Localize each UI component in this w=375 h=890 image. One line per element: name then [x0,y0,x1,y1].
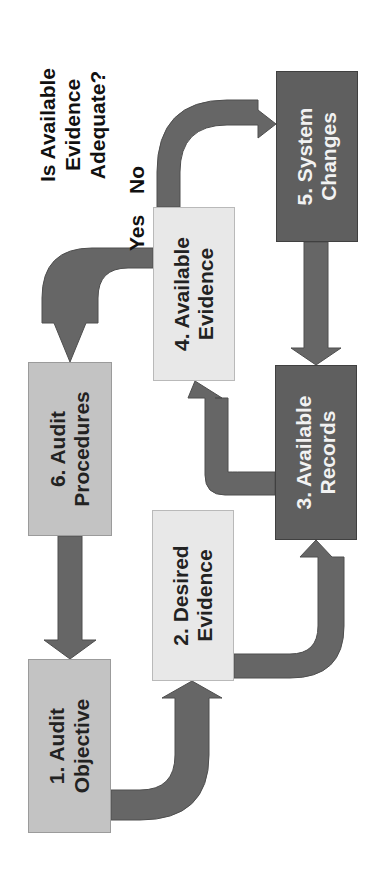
flowchart-canvas: 1. Audit Objective 2. Desired Evidence 3… [0,0,375,890]
decision-question: Is Available Evidence Adequate? [35,50,111,200]
node-available-evidence: 4. Available Evidence [153,207,235,381]
node-label: 6. Audit Procedures [46,391,94,507]
node-label: 5. System Changes [293,107,341,205]
node-label: 2. Desired Evidence [169,545,217,645]
arrow-evidence-to-procedures [42,248,153,362]
arrow-procedures-to-objective [44,536,96,659]
branch-label-yes: Yes [124,208,149,258]
node-audit-procedures: 6. Audit Procedures [28,362,112,536]
node-system-changes: 5. System Changes [276,71,358,242]
arrow-3-to-4 [188,381,275,495]
node-available-records: 3. Available Records [275,365,357,540]
node-audit-objective: 1. Audit Objective [28,659,111,833]
arrow-5-to-3 [291,242,341,365]
node-label: 4. Available Evidence [170,237,218,351]
node-label: 1. Audit Objective [45,699,93,794]
branch-label-no: No [124,160,149,200]
arrow-2-to-3 [234,540,344,678]
node-desired-evidence: 2. Desired Evidence [152,510,234,681]
arrow-1-to-2 [111,681,222,820]
node-label: 3. Available Records [292,396,340,510]
arrow-evidence-to-system-changes [157,100,276,207]
